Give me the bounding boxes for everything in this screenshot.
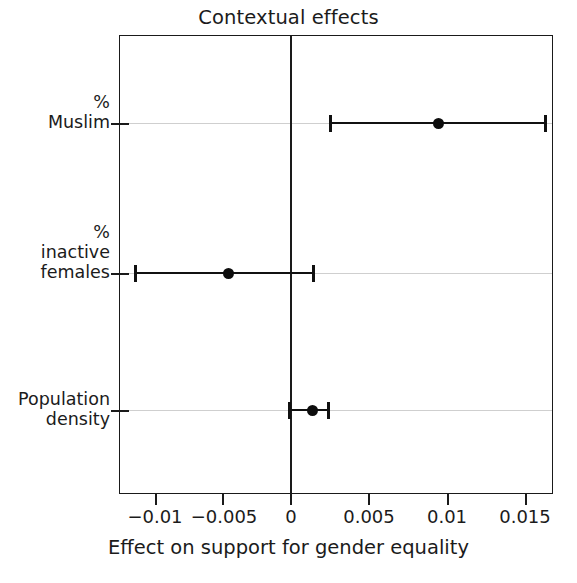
point-estimate-muslim xyxy=(433,118,444,129)
xticklabel-0.01: 0.01 xyxy=(427,506,467,527)
xticklabel-0.015: 0.015 xyxy=(499,506,551,527)
xticklabel-neg0.005: −0.005 xyxy=(191,506,258,527)
point-estimate-population-density xyxy=(307,405,318,416)
xtick-neg0.01 xyxy=(155,494,157,505)
xtick-0.005 xyxy=(368,494,370,505)
xtick-0.015 xyxy=(525,494,527,505)
chart-title: Contextual effects xyxy=(0,6,577,29)
plot-area xyxy=(119,35,553,494)
ylabel-muslim: % Muslim xyxy=(0,92,110,132)
ylabel-population-density: Population density xyxy=(0,389,110,429)
ytick-population-density xyxy=(111,410,129,412)
errorbar-cap-low-muslim xyxy=(329,115,332,132)
point-estimate-inactive-females xyxy=(223,268,234,279)
gridline-population-density xyxy=(120,410,552,411)
xaxis-title: Effect on support for gender equality xyxy=(0,536,577,559)
xtick-0.01 xyxy=(447,494,449,505)
ytick-muslim xyxy=(111,123,129,125)
errorbar-cap-high-muslim xyxy=(544,115,547,132)
xtick-neg0.005 xyxy=(222,494,224,505)
zero-reference-line xyxy=(290,36,292,493)
xticklabel-0: 0 xyxy=(285,506,296,527)
xtick-0 xyxy=(290,494,292,505)
xticklabel-neg0.01: −0.01 xyxy=(127,506,182,527)
ylabel-inactive-females: % inactive females xyxy=(0,222,110,282)
errorbar-cap-low-population-density xyxy=(288,402,291,419)
errorbar-cap-high-population-density xyxy=(327,402,330,419)
xticklabel-0.005: 0.005 xyxy=(343,506,395,527)
ytick-inactive-females xyxy=(111,273,129,275)
contextual-effects-figure: Contextual effects xyxy=(0,0,577,583)
errorbar-cap-low-inactive-females xyxy=(134,265,137,282)
errorbar-cap-high-inactive-females xyxy=(312,265,315,282)
